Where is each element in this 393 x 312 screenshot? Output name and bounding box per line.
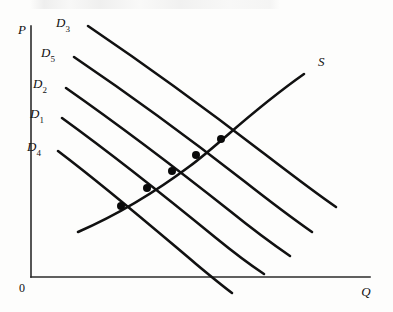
curve-label-d4-letter: D	[26, 139, 37, 154]
demand-curve-d3	[88, 26, 336, 207]
curve-label-d5-subscript: 5	[51, 54, 56, 64]
equilibrium-point	[217, 135, 225, 143]
supply-demand-chart: D3 D5 D2 D1 D4 S P Q 0	[0, 0, 393, 312]
equilibrium-point	[117, 202, 125, 210]
figure-container: D3 D5 D2 D1 D4 S P Q 0	[0, 0, 393, 312]
curve-label-d3-letter: D	[55, 15, 66, 30]
curve-label-s: S	[318, 54, 325, 69]
curve-label-d5-letter: D	[40, 45, 51, 60]
curve-label-d3-subscript: 3	[66, 24, 71, 34]
curve-label-d4-subscript: 4	[37, 148, 42, 158]
demand-curve-d5	[74, 57, 312, 232]
curve-label-d1-letter: D	[29, 106, 40, 121]
curve-label-d3: D3	[55, 15, 70, 34]
x-axis-label: Q	[361, 284, 371, 299]
curve-label-d1-subscript: 1	[40, 115, 45, 125]
curve-label-d4: D4	[26, 139, 41, 158]
y-axis-label: P	[17, 22, 26, 37]
demand-curve-d2	[66, 88, 290, 256]
equilibrium-point	[143, 184, 151, 192]
demand-curve-d4	[58, 151, 232, 293]
equilibrium-point	[168, 167, 176, 175]
equilibrium-point	[192, 151, 200, 159]
curve-label-d5: D5	[40, 45, 55, 64]
curve-label-d2-letter: D	[32, 76, 43, 91]
demand-curve-d1	[62, 118, 264, 274]
curve-label-d2-subscript: 2	[43, 85, 48, 95]
origin-label: 0	[19, 281, 25, 295]
curve-label-d2: D2	[32, 76, 47, 95]
